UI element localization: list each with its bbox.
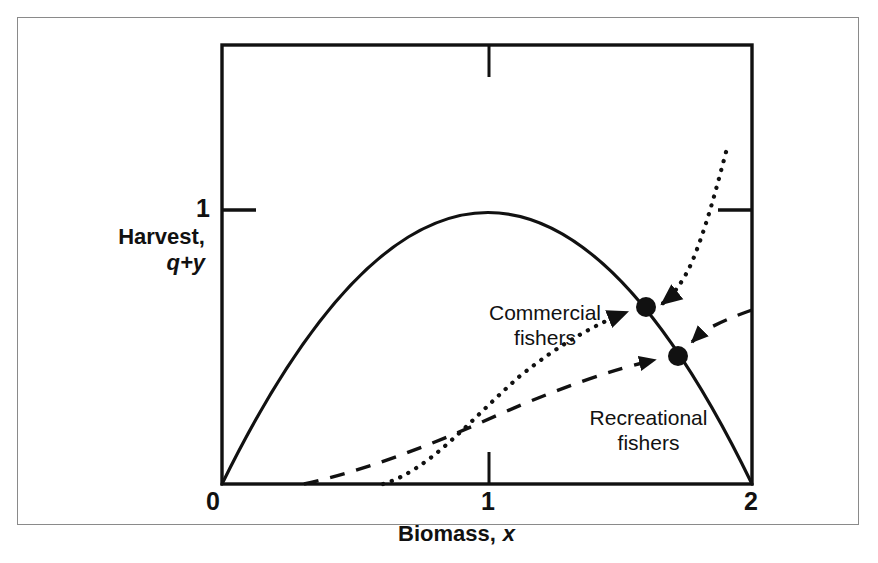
- xtick-label-1: 1: [481, 489, 495, 514]
- equilibrium-point-recreational: [668, 346, 688, 366]
- x-axis-title-variable: x: [496, 521, 515, 546]
- chart-plot-area: [0, 0, 878, 563]
- xtick-label-2: 2: [744, 489, 758, 514]
- annotation-commercial-line2: fishers: [470, 326, 620, 351]
- annotation-recreational-line1: Recreational: [571, 406, 726, 431]
- annotation-commercial-fishers: Commercial fishers: [470, 301, 620, 351]
- series-commercial-dotted-upper: [662, 152, 726, 304]
- annotation-recreational-line2: fishers: [571, 431, 726, 456]
- series-recreational-dashed-right: [692, 310, 752, 342]
- equilibrium-point-commercial: [636, 297, 656, 317]
- annotation-recreational-fishers: Recreational fishers: [571, 406, 726, 456]
- y-axis-title: Harvest, q+y: [40, 224, 205, 276]
- figure-canvas: 0 1 2 1 Harvest, q+y Biomass,x Commercia…: [0, 0, 878, 563]
- x-axis-title-main: Biomass,: [398, 521, 496, 546]
- x-axis-title: Biomass,x: [398, 521, 515, 546]
- y-axis-title-line1: Harvest,: [40, 224, 205, 250]
- annotation-commercial-line1: Commercial: [470, 301, 620, 326]
- y-axis-title-line2: q+y: [40, 250, 205, 276]
- ytick-label-1: 1: [196, 196, 210, 221]
- xtick-label-0: 0: [206, 489, 220, 514]
